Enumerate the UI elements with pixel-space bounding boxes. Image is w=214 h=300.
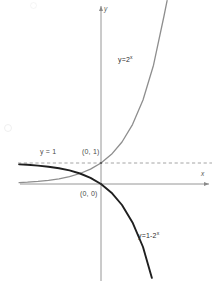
curve-label-exponential-exponent: x bbox=[130, 54, 133, 60]
curve-label-reflected-exponent: x bbox=[157, 230, 160, 236]
x-axis-label: x bbox=[201, 171, 204, 178]
curve-label-reflected: y=1-2x bbox=[138, 232, 159, 239]
exponential-functions-graph: y x y = 1 (0, 1) (0, 0) y=2x y=1-2x bbox=[0, 0, 214, 300]
point-label-0-1: (0, 1) bbox=[82, 148, 100, 155]
curve-y-equals-2-to-the-x bbox=[19, 1, 167, 183]
curve-label-exponential: y=2x bbox=[118, 56, 133, 63]
point-marker-0-0 bbox=[100, 183, 102, 185]
y-axis-label: y bbox=[104, 6, 107, 13]
curve-label-exponential-base: y=2 bbox=[118, 56, 130, 63]
x-axis-arrow-icon bbox=[204, 182, 209, 186]
y-axis-arrow-icon bbox=[99, 6, 103, 11]
point-marker-0-1 bbox=[100, 162, 102, 164]
curve-label-reflected-base: y=1-2 bbox=[138, 232, 157, 239]
plot-canvas bbox=[0, 0, 214, 300]
axes-group bbox=[20, 6, 209, 281]
point-label-0-0: (0, 0) bbox=[80, 190, 98, 197]
asymptote-label: y = 1 bbox=[40, 148, 56, 155]
